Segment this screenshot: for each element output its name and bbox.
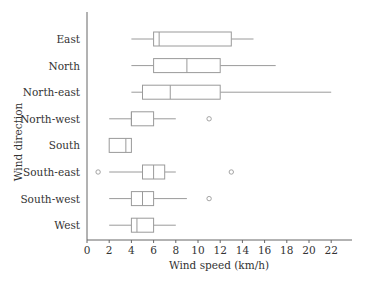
- x-tick-label: 20: [302, 244, 315, 256]
- x-tick-label: 18: [280, 244, 293, 256]
- category-label: South: [49, 139, 80, 151]
- box-north: [131, 59, 275, 73]
- plot-area: [96, 32, 331, 232]
- box-south-west: [109, 192, 211, 206]
- x-tick-label: 22: [325, 244, 338, 256]
- box-east: [131, 32, 253, 46]
- outlier-marker: [229, 170, 233, 174]
- x-tick-label: 8: [172, 244, 179, 256]
- category-label: North-west: [20, 113, 81, 125]
- wind-speed-boxplot: 0246810121416182022 Wind speed (km/h) Ea…: [0, 0, 368, 284]
- iqr-box: [109, 138, 131, 152]
- box-south: [109, 138, 131, 152]
- x-tick-label: 16: [258, 244, 272, 256]
- y-axis-title: Wind direction: [12, 102, 24, 181]
- x-tick-label: 2: [106, 244, 113, 256]
- box-north-east: [131, 85, 331, 99]
- x-tick-label: 12: [214, 244, 227, 256]
- box-south-east: [96, 165, 234, 179]
- x-tick-label: 14: [236, 244, 250, 256]
- x-axis: 0246810121416182022 Wind speed (km/h): [84, 240, 352, 271]
- outlier-marker: [207, 196, 211, 200]
- x-tick-label: 0: [84, 244, 91, 256]
- category-label: East: [56, 33, 80, 45]
- outlier-marker: [207, 117, 211, 121]
- box-west: [109, 218, 176, 232]
- x-tick-label: 10: [191, 244, 204, 256]
- box-north-west: [109, 112, 211, 126]
- x-tick-label: 4: [128, 244, 135, 256]
- outlier-marker: [96, 170, 100, 174]
- category-label: West: [54, 219, 81, 231]
- iqr-box: [131, 218, 153, 232]
- category-label: North: [48, 60, 80, 72]
- y-axis: EastNorthNorth-eastNorth-westSouthSouth-…: [12, 12, 87, 240]
- iqr-box: [154, 32, 232, 46]
- x-tick-label: 6: [150, 244, 157, 256]
- category-label: South-east: [23, 166, 81, 178]
- x-axis-title: Wind speed (km/h): [169, 259, 269, 271]
- category-labels: EastNorthNorth-eastNorth-westSouthSouth-…: [20, 33, 81, 231]
- category-label: South-west: [20, 193, 80, 205]
- category-label: North-east: [23, 86, 81, 98]
- x-ticks: 0246810121416182022: [84, 240, 338, 256]
- iqr-box: [143, 85, 221, 99]
- iqr-box: [131, 112, 153, 126]
